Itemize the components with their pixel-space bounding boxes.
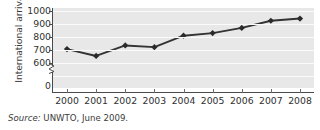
plot-area xyxy=(53,8,314,88)
y-tick-mark xyxy=(49,24,53,25)
gridline xyxy=(53,24,314,25)
x-tick-mark xyxy=(96,89,97,93)
source-label: Source: xyxy=(8,113,41,123)
data-point-marker xyxy=(210,30,216,36)
data-point-marker xyxy=(122,42,128,48)
data-point-marker xyxy=(268,18,274,24)
y-tick-label: 600 xyxy=(21,58,51,67)
gridline xyxy=(53,76,314,77)
gridline xyxy=(53,37,314,38)
y-tick-mark xyxy=(49,11,53,12)
x-tick-mark xyxy=(242,89,243,93)
x-tick-mark xyxy=(154,89,155,93)
x-tick-mark xyxy=(125,89,126,93)
gridline xyxy=(53,50,314,51)
y-tick-mark xyxy=(49,50,53,51)
y-tick-label: 700 xyxy=(21,45,51,54)
data-point-marker xyxy=(239,25,245,31)
axis-break-icon xyxy=(48,63,57,74)
y-tick-mark xyxy=(49,37,53,38)
x-tick-mark xyxy=(184,89,185,93)
y-tick-label: 900 xyxy=(21,19,51,28)
data-point-marker xyxy=(297,15,303,21)
x-tick-mark xyxy=(300,89,301,93)
x-tick-label: 2008 xyxy=(283,95,317,106)
x-tick-mark xyxy=(67,89,68,93)
chart-figure: International arrivals 1000 900 800 700 … xyxy=(0,0,320,130)
gridline xyxy=(53,63,314,64)
gridline xyxy=(53,11,314,12)
x-tick-mark xyxy=(213,89,214,93)
source-note: Source: UNWTO, June 2009. xyxy=(8,113,128,123)
y-tick-label: 800 xyxy=(21,32,51,41)
y-axis-line-lower xyxy=(52,72,53,92)
x-tick-mark xyxy=(271,89,272,93)
y-tick-label: 1000 xyxy=(21,6,51,15)
data-point-marker xyxy=(93,53,99,59)
source-text: UNWTO, June 2009. xyxy=(43,113,128,123)
y-tick-label: 0 xyxy=(21,81,51,90)
y-axis-tick-labels: 1000 900 800 700 600 0 xyxy=(20,0,51,105)
